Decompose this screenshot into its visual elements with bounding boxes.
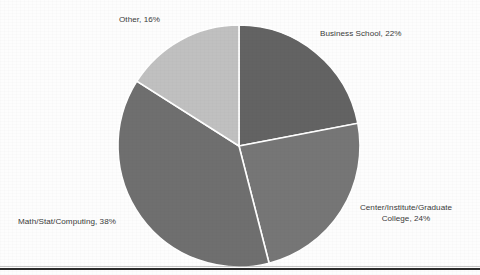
pie-chart-graphic [0, 0, 480, 275]
pie-chart-plot-area: Business School, 22% Center/Institute/Gr… [0, 0, 480, 275]
page-divider-soft [0, 266, 480, 267]
chart-page: Business School, 22% Center/Institute/Gr… [0, 0, 480, 275]
pie-label-other-text: Other, 16% [119, 15, 160, 24]
pie-label-business-school-text: Business School, 22% [320, 29, 402, 38]
pie-label-center-institute-graduate-college: Center/Institute/Graduate College, 24% [344, 203, 468, 224]
pie-label-other: Other, 16% [119, 15, 160, 26]
pie-label-center-institute-line1: Center/Institute/Graduate [360, 203, 452, 212]
pie-label-center-institute-line2: College, 24% [382, 214, 431, 223]
pie-label-math-stat-computing: Math/Stat/Computing, 38% [18, 217, 116, 228]
page-divider-rule [0, 268, 480, 270]
pie-slice-group [118, 25, 360, 267]
pie-label-math-stat-computing-text: Math/Stat/Computing, 38% [18, 217, 116, 226]
pie-label-business-school: Business School, 22% [320, 29, 402, 40]
